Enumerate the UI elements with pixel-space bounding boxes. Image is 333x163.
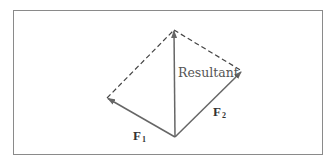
f2-label-main: F [213,104,221,119]
f1-label-main: F [133,128,141,143]
vector-f2 [175,72,241,137]
f2-label-subscript: 2 [222,111,226,120]
dashed-line-f1-to-resultant [107,30,174,98]
resultant-label: Resultant [178,65,239,80]
force-vector-diagram: Resultant F1 F2 [0,0,333,163]
f1-label-subscript: 1 [142,135,146,144]
vector-resultant [174,31,175,137]
f1-label: F1 [133,128,146,144]
f2-label: F2 [213,104,226,120]
vector-f1 [108,99,175,138]
